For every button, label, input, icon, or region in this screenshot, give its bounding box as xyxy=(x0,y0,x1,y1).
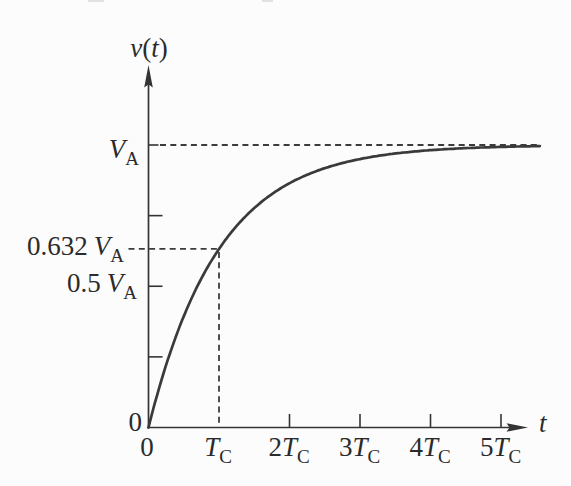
x-axis-arrowhead xyxy=(507,423,529,432)
x-label-5tc: 5TC xyxy=(480,432,521,467)
x-label-3tc: 3TC xyxy=(339,432,380,467)
y-label-05va: 0.5VA xyxy=(67,268,137,303)
y-label-va: VA xyxy=(109,134,140,169)
y-tick-marks xyxy=(149,216,163,357)
x-label-tc: TC xyxy=(204,432,232,467)
x-label-2tc: 2TC xyxy=(268,432,309,467)
x-tick-marks xyxy=(290,414,502,428)
rc-charging-chart: v(t) VA 0.632VA 0.5VA 0 0 TC 2TC 3TC 4TC… xyxy=(0,0,571,486)
scan-artifact-left xyxy=(88,0,104,2)
figure-canvas: v(t) VA 0.632VA 0.5VA 0 0 TC 2TC 3TC 4TC… xyxy=(0,0,571,486)
x-label-4tc: 4TC xyxy=(409,432,450,467)
y-label-0632va: 0.632VA xyxy=(27,231,124,266)
y-axis-arrowhead xyxy=(144,65,153,88)
charging-curve xyxy=(149,146,540,427)
y-axis-title: v(t) xyxy=(130,33,168,63)
x-label-0: 0 xyxy=(140,432,154,462)
x-axis-title: t xyxy=(539,408,548,438)
scan-artifact-right xyxy=(262,0,273,2)
